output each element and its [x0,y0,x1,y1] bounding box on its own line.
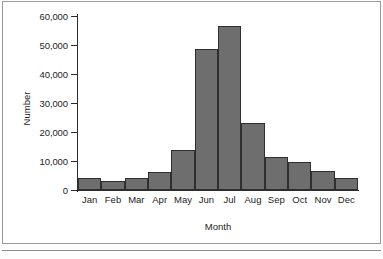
bar-aug [241,123,264,190]
bar-sep [265,157,288,190]
x-axis-tick-label: Dec [335,194,358,205]
y-axis-tick-label: 20,000 [40,127,68,138]
y-axis-tick-label: 30,000 [40,98,68,109]
y-axis-tick [71,190,77,191]
y-axis-tick-label: 0 [63,185,68,196]
x-axis-tick-label: Aug [241,194,264,205]
x-axis-tick-label: Apr [148,194,171,205]
x-axis-line [77,190,359,191]
y-axis-tick-label: 10,000 [40,156,68,167]
bar-may [171,150,194,190]
y-axis-tick [71,45,77,46]
x-axis-tick-label: Feb [101,194,124,205]
y-axis-tick [71,103,77,104]
y-axis-title: Number [21,79,32,139]
x-axis-tick-label: May [171,194,194,205]
x-axis-tick-label: Jul [218,194,241,205]
x-axis-tick-label: Jan [78,194,101,205]
y-axis-tick-label: 50,000 [40,40,68,51]
y-axis-tick [71,132,77,133]
bar-dec [335,178,358,190]
bar-apr [148,172,171,190]
bar-feb [101,181,124,190]
x-axis-tick-labels: JanFebMarAprMayJunJulAugSepOctNovDec [78,194,358,212]
bar-jan [78,178,101,190]
figure-page: 010,00020,00030,00040,00050,00060,000 Nu… [0,0,383,259]
y-axis-tick-labels: 010,00020,00030,00040,00050,00060,000 [0,0,68,259]
bar-nov [311,171,334,190]
y-axis-tick [71,161,77,162]
x-axis-tick-label: Sep [265,194,288,205]
y-axis-tick-label: 60,000 [40,11,68,22]
x-axis-tick-label: Oct [288,194,311,205]
bar-series [78,16,358,190]
x-axis-tick-label: Mar [125,194,148,205]
y-axis-tick [71,74,77,75]
bar-oct [288,162,311,190]
x-axis-tick-label: Nov [311,194,334,205]
bar-jul [218,26,241,190]
page-divider-rule [2,250,381,251]
bar-mar [125,178,148,190]
y-axis-tick [71,16,77,17]
x-axis-title: Month [78,221,358,232]
bar-jun [195,49,218,190]
y-axis-tick-label: 40,000 [40,69,68,80]
x-axis-tick-label: Jun [195,194,218,205]
